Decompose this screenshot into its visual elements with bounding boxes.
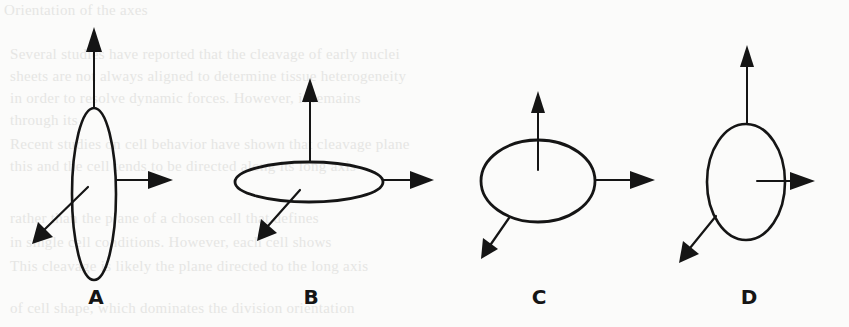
arrowhead-right-icon [410,171,434,189]
arrow-diagonal-c [491,218,509,244]
panel-c-diagram [481,91,655,259]
arrowhead-diagonal-icon [481,238,498,259]
panel-label-d: D [741,285,758,309]
arrowhead-up-icon [740,45,754,67]
arrow-diagonal-d [690,216,716,248]
arrowhead-right-icon [790,172,815,190]
arrow-diagonal-b [268,190,300,226]
arrowhead-up-icon [531,91,545,113]
arrow-diagonal-a [44,187,88,230]
arrowhead-up-icon [86,27,102,52]
cell-ellipse-a [72,108,116,280]
figure-canvas: Orientation of the axes Several studies … [0,0,849,327]
panel-d-diagram [679,45,815,263]
panel-a-diagram [32,27,173,280]
panel-label-a: A [88,285,103,309]
cell-ellipse-b [235,162,383,202]
arrowhead-diagonal-icon [257,219,277,241]
arrowhead-diagonal-icon [679,241,699,263]
arrowhead-up-icon [302,78,318,102]
panel-b-diagram [235,78,434,241]
diagram-svg [0,0,849,327]
arrowhead-right-icon [148,171,173,189]
panel-label-b: B [303,285,318,309]
panel-label-c: C [532,285,547,309]
arrowhead-right-icon [630,171,655,189]
